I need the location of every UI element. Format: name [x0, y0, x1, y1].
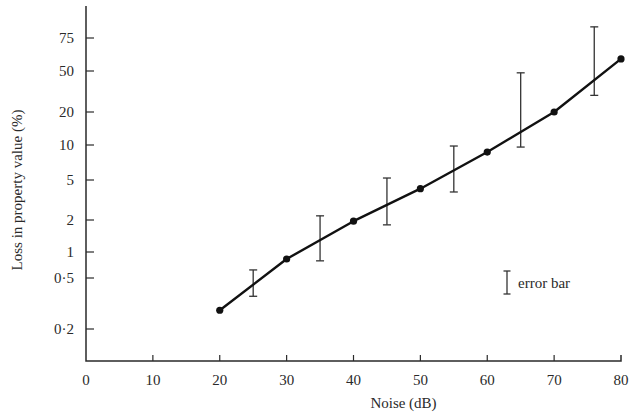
- chart: 01020304050607080 0·20·512510205075 erro…: [0, 0, 644, 415]
- x-axis-title: Noise (dB): [370, 395, 436, 412]
- x-tick-label: 10: [145, 372, 160, 388]
- x-tick-label: 60: [480, 372, 495, 388]
- y-tick-label: 75: [59, 30, 74, 46]
- data-point-marker: [283, 255, 290, 262]
- legend: error bar: [504, 271, 571, 294]
- data-point-marker: [417, 185, 424, 192]
- data-point-marker: [551, 108, 558, 115]
- series-line: [220, 59, 621, 310]
- x-tick-label: 20: [212, 372, 227, 388]
- x-axis-ticks: 01020304050607080: [82, 355, 628, 388]
- axis-frame: [86, 6, 621, 361]
- axes: [86, 6, 621, 361]
- x-tick-label: 50: [413, 372, 428, 388]
- x-tick-label: 30: [279, 372, 294, 388]
- error-bars: [249, 27, 598, 296]
- y-tick-label: 20: [59, 104, 74, 120]
- x-tick-label: 70: [547, 372, 562, 388]
- y-axis-title: Loss in property value (%): [9, 110, 26, 271]
- data-point-marker: [350, 218, 357, 225]
- y-tick-label: 1: [67, 244, 75, 260]
- legend-label: error bar: [518, 275, 570, 291]
- data-point-marker: [617, 55, 624, 62]
- y-tick-label: 2: [67, 212, 75, 228]
- y-tick-label: 0·5: [54, 270, 74, 286]
- y-tick-label: 0·2: [54, 321, 74, 337]
- y-tick-label: 50: [59, 63, 74, 79]
- x-tick-label: 40: [346, 372, 361, 388]
- data-point-marker: [484, 148, 491, 155]
- x-tick-label: 80: [614, 372, 629, 388]
- y-tick-label: 5: [67, 172, 75, 188]
- y-tick-label: 10: [59, 137, 74, 153]
- data-point-marker: [216, 307, 223, 314]
- y-axis-ticks: 0·20·512510205075: [54, 30, 94, 337]
- x-tick-label: 0: [82, 372, 90, 388]
